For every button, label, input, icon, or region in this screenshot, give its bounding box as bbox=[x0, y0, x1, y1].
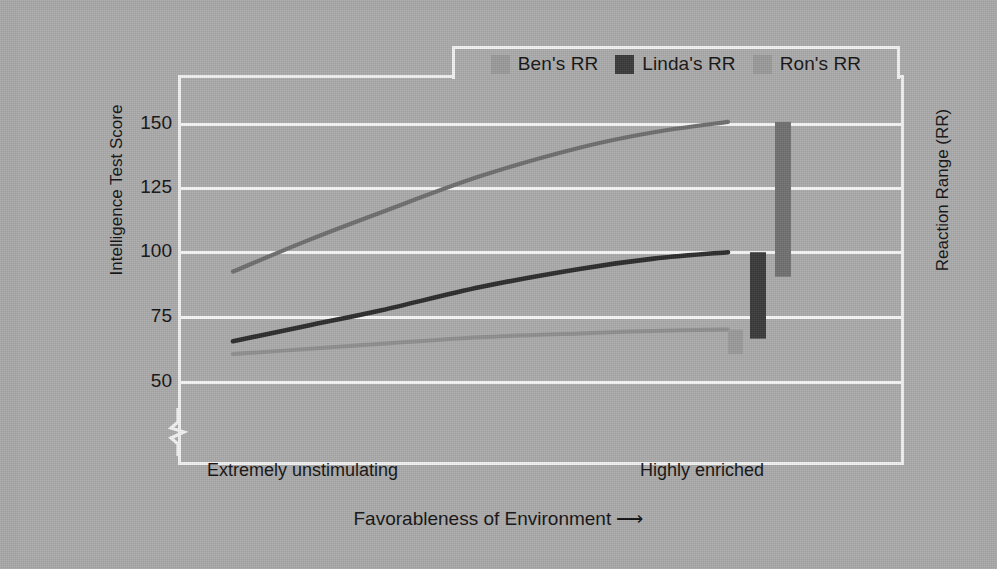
chart-panel: 150 125 100 75 50 Intelligence Test Scor… bbox=[18, 10, 979, 559]
chart-plot-area bbox=[18, 10, 979, 559]
rr-bar-ben bbox=[728, 330, 743, 355]
legend-label-ron: Ron's RR bbox=[780, 53, 862, 75]
legend-label-ben: Ben's RR bbox=[518, 53, 598, 75]
legend-swatch-linda-icon bbox=[615, 55, 634, 74]
curve-ron bbox=[233, 122, 728, 272]
legend-item-ron: Ron's RR bbox=[753, 53, 862, 75]
xtick-right: Highly enriched bbox=[640, 460, 764, 481]
rr-bar-ron bbox=[775, 122, 791, 277]
x-axis-title: Favorableness of Environment ⟶ bbox=[18, 507, 979, 530]
chart-legend: Ben's RR Linda's RR Ron's RR bbox=[452, 46, 900, 79]
xtick-left: Extremely unstimulating bbox=[207, 460, 398, 481]
legend-swatch-ron-icon bbox=[753, 55, 772, 74]
legend-label-linda: Linda's RR bbox=[642, 53, 735, 75]
legend-item-linda: Linda's RR bbox=[615, 53, 735, 75]
legend-swatch-ben-icon bbox=[491, 55, 510, 74]
curve-ben bbox=[233, 330, 728, 355]
chart-figure: 150 125 100 75 50 Intelligence Test Scor… bbox=[0, 0, 997, 569]
legend-item-ben: Ben's RR bbox=[491, 53, 598, 75]
curve-linda bbox=[233, 252, 728, 341]
rr-bar-linda bbox=[750, 252, 766, 338]
